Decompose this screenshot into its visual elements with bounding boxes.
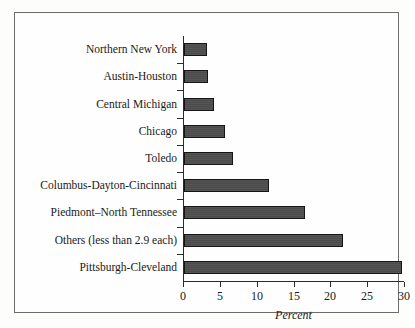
category-tick bbox=[177, 145, 183, 146]
value-tick bbox=[404, 282, 405, 287]
bar bbox=[184, 179, 269, 192]
category-tick bbox=[177, 199, 183, 200]
bar bbox=[184, 261, 402, 274]
bar bbox=[184, 70, 208, 83]
category-label: Columbus-Dayton-Cincinnati bbox=[0, 179, 177, 192]
category-label: Chicago bbox=[0, 125, 177, 138]
value-tick bbox=[367, 282, 368, 287]
category-tick bbox=[177, 118, 183, 119]
category-label: Central Michigan bbox=[0, 98, 177, 111]
value-tick bbox=[257, 282, 258, 287]
category-tick bbox=[177, 254, 183, 255]
category-tick bbox=[177, 63, 183, 64]
value-tick bbox=[183, 282, 184, 287]
category-tick bbox=[177, 172, 183, 173]
x-axis-title: Percent bbox=[183, 308, 404, 323]
value-tick-label: 10 bbox=[237, 289, 277, 303]
bar bbox=[184, 125, 225, 138]
bar bbox=[184, 234, 343, 247]
category-label: Toledo bbox=[0, 152, 177, 165]
category-label: Northern New York bbox=[0, 43, 177, 56]
category-label: Others (less than 2.9 each) bbox=[0, 234, 177, 247]
bar bbox=[184, 43, 207, 56]
bar bbox=[184, 206, 305, 219]
value-tick-label: 20 bbox=[310, 289, 350, 303]
value-tick-label: 0 bbox=[163, 289, 203, 303]
category-label: Pittsburgh-Cleveland bbox=[0, 261, 177, 274]
bar bbox=[184, 98, 214, 111]
value-tick-label: 30 bbox=[384, 289, 415, 303]
category-tick bbox=[177, 90, 183, 91]
category-label: Piedmont–North Tennessee bbox=[0, 206, 177, 219]
bar bbox=[184, 152, 233, 165]
value-tick-label: 25 bbox=[347, 289, 387, 303]
value-tick bbox=[294, 282, 295, 287]
figure-frame: Northern New YorkAustin-HoustonCentral M… bbox=[14, 12, 399, 313]
value-tick-label: 5 bbox=[200, 289, 240, 303]
value-tick bbox=[220, 282, 221, 287]
category-tick bbox=[177, 227, 183, 228]
value-tick-label: 15 bbox=[274, 289, 314, 303]
plot-area: Northern New YorkAustin-HoustonCentral M… bbox=[183, 36, 404, 281]
value-tick bbox=[330, 282, 331, 287]
category-label: Austin-Houston bbox=[0, 70, 177, 83]
